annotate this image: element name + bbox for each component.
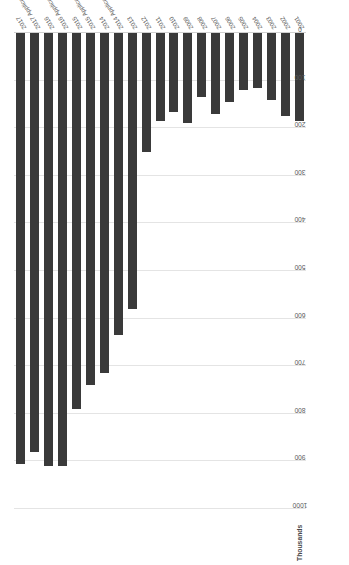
chart-page: 10009008007006005004003002001000 Thousan… xyxy=(0,0,349,565)
value-tick-label: 800 xyxy=(294,407,305,414)
category-label: 2004 xyxy=(251,15,264,30)
value-tick-label: 700 xyxy=(294,359,305,366)
bar-chart: 10009008007006005004003002001000 Thousan… xyxy=(0,0,349,565)
value-tick-label: 500 xyxy=(294,264,305,271)
bar xyxy=(211,33,220,114)
bar xyxy=(72,33,81,409)
value-tick-label: 200 xyxy=(294,121,305,128)
bar xyxy=(169,33,178,112)
bar xyxy=(58,33,67,466)
axis-units-label: Thousands xyxy=(296,525,303,561)
bar xyxy=(16,33,25,464)
bar xyxy=(100,33,109,373)
category-label: 2014 xyxy=(98,15,111,30)
value-tick-label: 100 xyxy=(294,74,305,81)
bar xyxy=(30,33,39,452)
category-label: 2015 xyxy=(70,15,83,30)
bar xyxy=(128,33,137,309)
category-label: 2007 xyxy=(209,15,222,30)
bar xyxy=(225,33,234,102)
category-label: 2002 xyxy=(278,15,291,30)
bar xyxy=(281,33,290,116)
category-label: 2013 xyxy=(125,15,138,30)
bar xyxy=(156,33,165,121)
value-tick-label: 400 xyxy=(294,216,305,223)
category-label: 2008 xyxy=(195,15,208,30)
category-label: 2016 xyxy=(42,15,55,30)
category-label: 2010 xyxy=(167,15,180,30)
bar xyxy=(183,33,192,123)
value-tick-label: 1000 xyxy=(293,502,308,509)
category-label: 2001 xyxy=(292,15,305,30)
category-label: 2012 xyxy=(139,15,152,30)
bar xyxy=(114,33,123,335)
bar xyxy=(239,33,248,90)
rotated-figure: 10009008007006005004003002001000 Thousan… xyxy=(0,0,349,565)
value-tick-label: 600 xyxy=(294,312,305,319)
gridline-1000 xyxy=(14,508,306,509)
bar xyxy=(253,33,262,88)
category-label: 2003 xyxy=(264,15,277,30)
category-label: 2005 xyxy=(237,15,250,30)
bar xyxy=(86,33,95,385)
bar xyxy=(142,33,151,152)
plot-area xyxy=(14,33,306,509)
value-tick-label: 300 xyxy=(294,169,305,176)
category-label: 2011 xyxy=(153,16,166,31)
value-tick-label: 900 xyxy=(294,454,305,461)
category-label: 2009 xyxy=(181,15,194,30)
bar xyxy=(267,33,276,100)
category-label: 2006 xyxy=(223,15,236,30)
bar xyxy=(197,33,206,97)
bar xyxy=(44,33,53,466)
category-label: 2017 xyxy=(14,15,27,30)
